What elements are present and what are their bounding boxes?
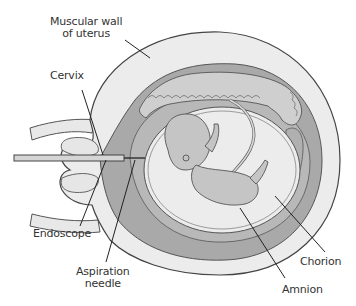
label-amnion: Amnion [282,284,323,296]
label-cervix: Cervix [50,70,84,82]
label-muscular-wall-line2: of uterus [50,28,122,40]
label-aspiration-needle: Aspiration needle [76,266,130,290]
label-aspiration-line2: needle [76,278,130,290]
label-endoscope: Endoscope [33,228,91,240]
label-chorion: Chorion [300,256,341,268]
label-muscular-wall: Muscular wall of uterus [50,16,122,40]
